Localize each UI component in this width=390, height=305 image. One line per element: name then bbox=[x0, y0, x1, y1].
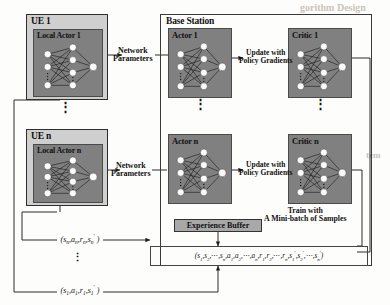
network-parameters-label-top: Network Parameters bbox=[113, 47, 153, 64]
bs-critic-first-label: Critic 1 bbox=[292, 30, 318, 40]
experience-buffer-box[interactable]: Experience Buffer bbox=[174, 219, 262, 232]
ue-last-box: UE n Local Actor n bbox=[26, 129, 108, 206]
minibatch-tuple-text: (s1,s2,⋯,sn,a1,a2,⋯,an,r1,r2,⋯,rn,s1′,s2… bbox=[195, 250, 324, 262]
local-actor-last-network: Local Actor n bbox=[33, 144, 103, 203]
ue-column-vertical-dots: ⋮ bbox=[50, 104, 80, 111]
bs-critic-first-network: Critic 1 bbox=[288, 28, 352, 98]
network-parameters-line2: Parameters bbox=[113, 55, 153, 63]
transition-tuple-first-box: (s1,a1,r1,s1′ ) bbox=[57, 282, 103, 299]
ue-last-title: UE n bbox=[31, 131, 51, 141]
base-station-title: Base Station bbox=[166, 16, 214, 26]
ue-first-box: UE 1 Local Actor 1 bbox=[26, 14, 108, 100]
ghost-text-top-right: gorithm Design bbox=[300, 2, 366, 13]
bs-critic-column-vertical-dots: ⋮ bbox=[305, 101, 335, 108]
minibatch-tuple-box: (s1,s2,⋯,sn,a1,a2,⋯,an,r1,r2,⋯,rn,s1′,s2… bbox=[150, 246, 368, 266]
bs-critic-last-network: Critic n bbox=[288, 134, 352, 204]
network-parameters-line2: Parameters bbox=[111, 170, 151, 178]
local-actor-first-network: Local Actor 1 bbox=[33, 29, 103, 97]
local-actor-first-label: Local Actor 1 bbox=[37, 31, 80, 40]
ue-first-title: UE 1 bbox=[31, 16, 51, 26]
network-parameters-label-bottom: Network Parameters bbox=[111, 162, 151, 179]
bs-actor-column-vertical-dots: ⋮ bbox=[185, 101, 215, 108]
figure-canvas: gorithm Design tem bbox=[0, 0, 390, 305]
policy-gradients-label-top: Update with Policy Gradients bbox=[239, 49, 293, 65]
bs-critic-last-label: Critic n bbox=[292, 136, 319, 146]
bs-actor-last-label: Actor n bbox=[172, 136, 198, 146]
local-actor-last-label: Local Actor n bbox=[37, 146, 81, 155]
policy-gradients-label-bottom: Update with Policy Gradients bbox=[239, 161, 293, 177]
train-minibatch-label: Train with A Mini-batch of Samples bbox=[264, 207, 347, 223]
transition-tuple-first-text: (s1,a1,r1,s1′ ) bbox=[61, 284, 100, 296]
transition-vertical-dots: ⋮ bbox=[62, 255, 92, 261]
bs-actor-last-network: Actor n bbox=[168, 134, 232, 204]
policy-gradients-line2: Policy Gradients bbox=[239, 57, 293, 65]
bs-actor-first-network: Actor 1 bbox=[168, 28, 232, 98]
experience-buffer-label: Experience Buffer bbox=[187, 221, 249, 230]
transition-tuple-last-box: (sn,an,rn,sn′ ) bbox=[57, 231, 103, 248]
policy-gradients-line2: Policy Gradients bbox=[239, 169, 293, 177]
transition-tuple-last-text: (sn,an,rn,sn′ ) bbox=[61, 233, 100, 245]
train-label-line2: A Mini-batch of Samples bbox=[264, 215, 347, 223]
bs-actor-first-label: Actor 1 bbox=[172, 30, 198, 40]
